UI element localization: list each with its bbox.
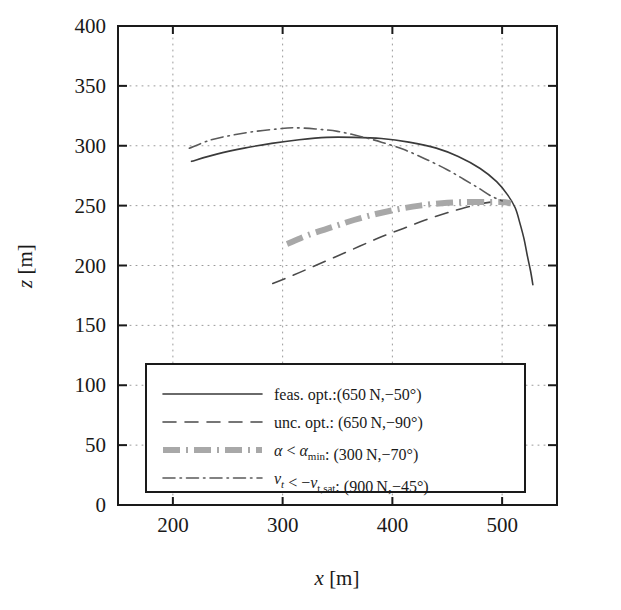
y-tick-label: 100 [75,373,107,397]
y-tick-label: 350 [75,74,107,98]
y-tick-label: 150 [75,313,107,337]
y-tick-label: 400 [75,14,107,38]
y-axis-title: z [m] [13,244,37,289]
x-axis-title: x [m] [314,566,360,590]
x-tick-label: 400 [377,513,409,537]
figure-container: 200300400500 050100150200250300350400 x … [0,0,621,610]
x-tick-label: 500 [486,513,518,537]
x-tick-label: 200 [157,513,189,537]
y-tick-label: 200 [75,254,107,278]
y-tick-label: 0 [96,493,107,517]
y-tick-label: 250 [75,194,107,218]
legend-label-1: feas. opt.:(650 N,−50°) [274,386,422,404]
y-tick-label: 50 [85,433,106,457]
legend: feas. opt.:(650 N,−50°)unc. opt.: (650 N… [146,364,525,496]
x-tick-label: 300 [267,513,299,537]
trajectory-chart: 200300400500 050100150200250300350400 x … [0,0,621,610]
legend-label-2: unc. opt.: (650 N,−90°) [274,414,423,432]
y-tick-label: 300 [75,134,107,158]
